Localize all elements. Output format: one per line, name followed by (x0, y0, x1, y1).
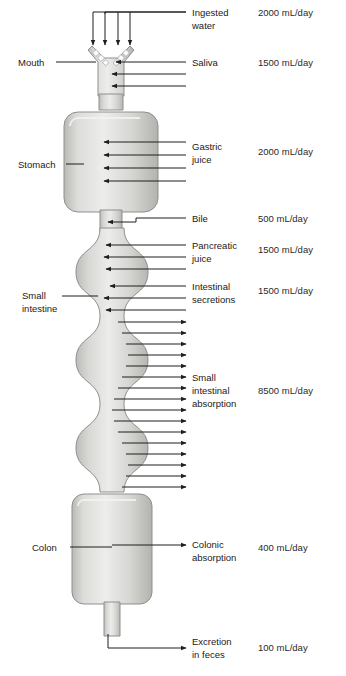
flow-label-pancreatic-juice-line1: Pancreatic (192, 240, 237, 251)
flow-label-gastric-juice-line1: Gastric (192, 141, 222, 152)
flow-label-small-intestinal-absorption-line2: intestinal (192, 385, 230, 396)
organ-label-stomach: Stomach (18, 159, 56, 170)
flow-label-ingested-water-line1: Ingested (192, 7, 228, 18)
esophagus-organ (99, 94, 123, 110)
flow-label-gastric-juice-line2: juice (191, 154, 212, 165)
flow-volume-pancreatic-juice: 1500 mL/day (258, 244, 313, 255)
organ-label-small-intestine-line2: intestine (22, 303, 57, 314)
flow-ingested-water-arrows (93, 12, 186, 45)
flow-label-small-intestinal-absorption-line1: Small (192, 372, 216, 383)
flow-volume-colonic-absorption: 400 mL/day (258, 542, 308, 553)
organ-label-colon: Colon (32, 542, 57, 553)
flow-label-colonic-absorption-line1: Colonic (192, 539, 224, 550)
flow-volume-excretion: 100 mL/day (258, 642, 308, 653)
flow-volume-intestinal-secretions: 1500 mL/day (258, 285, 313, 296)
flow-volume-bile: 500 mL/day (258, 213, 308, 224)
flow-label-intestinal-secretions-line1: Intestinal (192, 281, 230, 292)
flow-label-excretion-line1: Excretion (192, 636, 232, 647)
flow-label-excretion-line2: in feces (192, 649, 225, 660)
gi-tract-diagram: Mouth Stomach Small intestine Colon Inge… (0, 0, 346, 676)
flow-label-ingested-water-line2: water (191, 20, 215, 31)
small-intestine-organ (76, 228, 148, 492)
flow-label-saliva: Saliva (192, 57, 219, 68)
flow-label-bile: Bile (192, 213, 208, 224)
flow-label-pancreatic-juice-line2: juice (191, 253, 212, 264)
rectum-organ (104, 602, 120, 636)
organ-label-mouth: Mouth (18, 57, 44, 68)
flow-label-small-intestinal-absorption-line3: absorption (192, 398, 236, 409)
flow-label-colonic-absorption-line2: absorption (192, 552, 236, 563)
diagram-canvas: Mouth Stomach Small intestine Colon Inge… (0, 0, 346, 676)
flow-label-intestinal-secretions-line2: secretions (192, 294, 236, 305)
organ-label-small-intestine-line1: Small (22, 290, 46, 301)
flow-volume-saliva: 1500 mL/day (258, 57, 313, 68)
colon-organ (72, 494, 152, 604)
flow-volume-gastric-juice: 2000 mL/day (258, 146, 313, 157)
flow-volume-ingested-water: 2000 mL/day (258, 7, 313, 18)
flow-volume-small-intestinal-absorption: 8500 mL/day (258, 385, 313, 396)
stomach-organ (64, 112, 158, 212)
